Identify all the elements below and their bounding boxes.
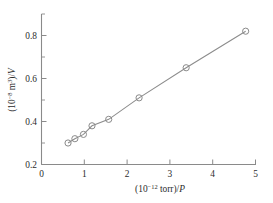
chart-figure: 0.2 0.4 0.6 0.8 0 1 2 3 4 5 (10−12 torr)…	[0, 0, 273, 203]
scatter-plot-canvas: 0.2 0.4 0.6 0.8 0 1 2 3 4 5 (10−12 torr)…	[0, 0, 273, 203]
x-tick-label-3: 3	[168, 169, 173, 179]
x-axis-title-exponent: −12	[148, 183, 158, 190]
y-tick-label-2: 0.6	[25, 74, 37, 84]
x-axis-title: (10−12 torr)/P	[135, 183, 185, 195]
y-axis-title-variable: V	[7, 67, 17, 74]
x-axis-major-ticks	[42, 160, 256, 165]
y-tick-label-3: 0.8	[25, 31, 37, 41]
x-axis-tick-labels: 0 1 2 3 4 5	[39, 169, 258, 179]
y-axis-title: (10−8 m3)/V	[6, 67, 18, 112]
y-tick-label-1: 0.4	[25, 117, 37, 127]
y-axis-title-prefix: (10	[7, 99, 18, 112]
x-axis-title-prefix: (10	[135, 184, 148, 195]
x-tick-label-0: 0	[39, 169, 44, 179]
x-tick-label-1: 1	[82, 169, 87, 179]
x-axis-title-variable: P	[178, 184, 185, 194]
y-axis-title-exponent: −8	[6, 93, 13, 100]
x-tick-label-5: 5	[253, 169, 258, 179]
x-tick-label-4: 4	[210, 169, 215, 179]
y-tick-label-0: 0.2	[25, 160, 37, 170]
x-axis-title-unit: torr)/	[158, 184, 180, 195]
y-axis-tick-labels: 0.2 0.4 0.6 0.8	[25, 31, 37, 170]
x-tick-label-2: 2	[125, 169, 130, 179]
